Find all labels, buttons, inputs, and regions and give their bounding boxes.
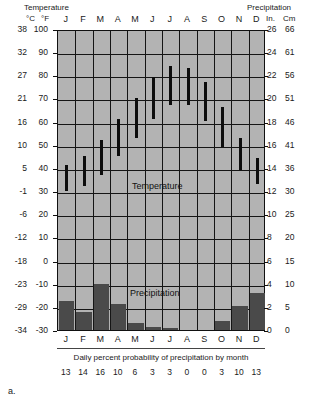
month-header-label-1: F	[74, 13, 91, 25]
left-axis-fahrenheit-7: 30	[30, 187, 48, 196]
right-axis-inches-2: 22	[267, 71, 283, 80]
month-footer-label-2: M	[92, 333, 109, 346]
gridline-v-8	[197, 31, 198, 330]
left-axis-fahrenheit-9: 10	[30, 233, 48, 242]
precip-probability-value-5: 3	[144, 366, 161, 378]
month-header-row: JFMAMJJASOND	[57, 13, 265, 25]
right-tick-6	[264, 169, 268, 170]
right-tick-9	[264, 238, 268, 239]
temperature-bar-O-9	[221, 107, 224, 146]
climate-chart: Temperature Precipitation °C °F In. Cm J…	[0, 0, 312, 402]
left-tick-13	[53, 331, 57, 332]
precipitation-bar-J-0	[59, 301, 74, 330]
gridline-h-6	[58, 170, 264, 171]
left-tick-1	[53, 53, 57, 54]
left-axis-celsius-9: -12	[5, 233, 27, 242]
gridline-h-3	[58, 100, 264, 101]
right-axis-centimeters-3: 51	[285, 94, 303, 103]
right-axis-centimeters-12: 5	[285, 303, 303, 312]
right-tick-1	[264, 53, 268, 54]
right-axis-centimeters-10: 15	[285, 257, 303, 266]
left-axis-celsius-12: -29	[5, 303, 27, 312]
gridline-h-9	[58, 239, 264, 240]
precip-probability-value-10: 10	[230, 366, 247, 378]
precip-probability-value-9: 3	[213, 366, 230, 378]
temperature-bar-J-0	[65, 165, 68, 190]
right-tick-3	[264, 99, 268, 100]
left-axis-celsius-6: 5	[5, 164, 27, 173]
precip-probability-value-3: 10	[109, 366, 126, 378]
right-tick-13	[264, 331, 268, 332]
left-axis-fahrenheit-2: 80	[30, 71, 48, 80]
left-tick-8	[53, 215, 57, 216]
gridline-h-10	[58, 263, 264, 264]
temperature-bar-F-1	[83, 156, 86, 186]
left-tick-10	[53, 262, 57, 263]
gridline-v-4	[127, 31, 128, 330]
right-axis-inches-1: 24	[267, 48, 283, 57]
footer-divider	[57, 348, 265, 349]
right-axis-inches-3: 20	[267, 94, 283, 103]
month-header-label-6: J	[161, 13, 178, 25]
left-tick-3	[53, 99, 57, 100]
precipitation-band-label: Precipitation	[130, 288, 180, 298]
plot-area: Temperature Precipitation	[57, 30, 265, 331]
right-tick-8	[264, 215, 268, 216]
right-axis-centimeters-6: 36	[285, 164, 303, 173]
left-axis-celsius-11: -23	[5, 280, 27, 289]
right-axis-inches-12: 2	[267, 303, 283, 312]
left-axis-fahrenheit-6: 40	[30, 164, 48, 173]
right-axis-centimeters-11: 10	[285, 280, 303, 289]
month-header-label-4: M	[126, 13, 143, 25]
left-tick-2	[53, 76, 57, 77]
month-footer-label-4: M	[126, 333, 143, 346]
precipitation-bar-F-1	[76, 312, 91, 330]
left-tick-11	[53, 285, 57, 286]
left-axis-fahrenheit-5: 50	[30, 141, 48, 150]
right-axis-centimeters-0: 66	[285, 25, 303, 34]
precip-probability-value-8: 0	[196, 366, 213, 378]
right-tick-4	[264, 123, 268, 124]
right-axis-inches-0: 26	[267, 25, 283, 34]
right-axis-centimeters-2: 56	[285, 71, 303, 80]
temperature-bar-J-5	[152, 77, 155, 119]
figure-label: a.	[8, 386, 16, 396]
month-footer-label-6: J	[161, 333, 178, 346]
left-axis-celsius-0: 38	[5, 25, 27, 34]
left-axis-celsius-4: 16	[5, 118, 27, 127]
left-axis-celsius-2: 27	[5, 71, 27, 80]
precipitation-bar-D-11	[250, 293, 265, 330]
left-axis-celsius-1: 32	[5, 48, 27, 57]
gridline-h-5	[58, 147, 264, 148]
gridline-h-1	[58, 54, 264, 55]
precip-probability-value-11: 13	[248, 366, 265, 378]
unit-fahrenheit-label: °F	[41, 14, 49, 23]
month-footer-label-7: A	[178, 333, 195, 346]
left-axis-celsius-3: 21	[5, 94, 27, 103]
right-tick-12	[264, 308, 268, 309]
left-axis-fahrenheit-4: 60	[30, 118, 48, 127]
temperature-axis-title: Temperature	[24, 3, 69, 12]
left-axis-celsius-13: -34	[5, 326, 27, 335]
temperature-bar-M-4	[135, 98, 138, 137]
left-axis-fahrenheit-0: 100	[30, 25, 48, 34]
right-tick-5	[264, 146, 268, 147]
gridline-v-1	[75, 31, 76, 330]
right-tick-7	[264, 192, 268, 193]
right-axis-inches-4: 18	[267, 118, 283, 127]
footer-caption: Daily percent probability of precipitati…	[57, 352, 265, 363]
left-axis-celsius-8: -6	[5, 210, 27, 219]
left-axis-celsius-5: 10	[5, 141, 27, 150]
precipitation-bar-A-3	[111, 304, 126, 330]
precipitation-bar-M-2	[94, 284, 109, 330]
month-footer-label-1: F	[74, 333, 91, 346]
right-axis-inches-13: 0	[267, 326, 283, 335]
left-axis-fahrenheit-12: -20	[30, 303, 48, 312]
left-axis-fahrenheit-13: -30	[30, 326, 48, 335]
unit-centimeters-label: Cm	[283, 14, 295, 23]
left-tick-9	[53, 238, 57, 239]
left-axis-fahrenheit-1: 90	[30, 48, 48, 57]
temperature-bar-S-8	[204, 82, 207, 121]
month-header-label-7: A	[178, 13, 195, 25]
gridline-h-2	[58, 77, 264, 78]
